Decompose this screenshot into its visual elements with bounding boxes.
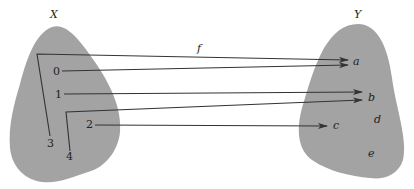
domain-element-4: 4 xyxy=(66,150,73,163)
codomain-element-e: e xyxy=(368,147,375,160)
domain-element-3: 3 xyxy=(47,137,54,150)
domain-element-1: 1 xyxy=(55,88,62,101)
mapping-arrow-2-to-c xyxy=(95,125,327,126)
codomain-element-c: c xyxy=(333,119,339,132)
function-label: f xyxy=(196,42,203,55)
set-y-label: Y xyxy=(354,8,363,21)
set-x-blob xyxy=(10,26,121,182)
domain-element-0: 0 xyxy=(53,65,60,78)
set-y-blob xyxy=(299,24,404,178)
codomain-element-d: d xyxy=(374,113,381,126)
mapping-arrow-0-to-a xyxy=(62,65,348,71)
function-diagram: X Y f 0 1 2 3 4 a b c d e xyxy=(0,0,414,189)
domain-element-2: 2 xyxy=(86,118,93,131)
codomain-element-b: b xyxy=(368,91,375,104)
set-x-label: X xyxy=(49,8,59,21)
codomain-element-a: a xyxy=(353,55,360,68)
